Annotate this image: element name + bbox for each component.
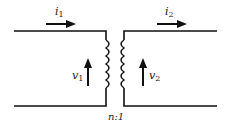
secondary-coil [121, 40, 124, 88]
current-i2-arrow-icon [157, 20, 187, 28]
label-i1: i1 [55, 5, 64, 19]
turns-ratio-label: n:1 [108, 111, 124, 122]
secondary-top-wire [124, 31, 217, 40]
voltage-v1-arrow-icon [84, 58, 92, 86]
label-v2: v2 [149, 69, 160, 83]
secondary-bottom-wire [124, 88, 217, 106]
current-i1-arrow-icon [46, 20, 76, 28]
transformer-diagram: i1 i2 v1 v2 n:1 [0, 0, 229, 125]
primary-coil [106, 40, 109, 88]
primary-top-wire [14, 31, 106, 40]
label-v1: v1 [72, 69, 83, 83]
label-i2: i2 [165, 5, 174, 19]
primary-bottom-wire [14, 88, 106, 106]
voltage-v2-arrow-icon [139, 58, 147, 86]
